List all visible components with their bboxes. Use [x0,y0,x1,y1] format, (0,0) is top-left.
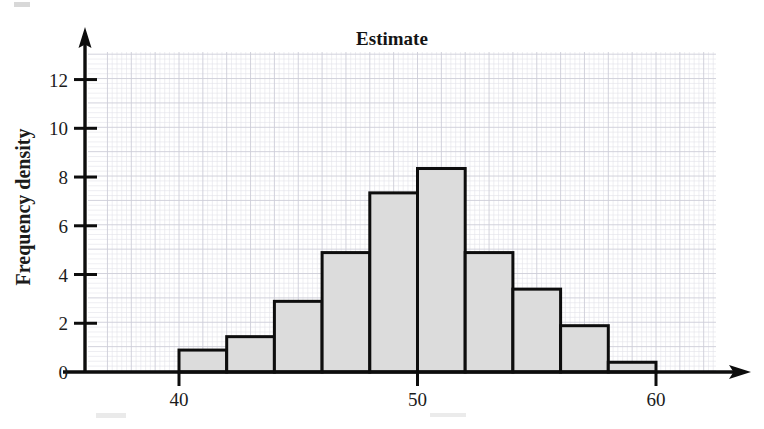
histogram-bar [179,350,227,372]
y-axis-title: Frequency density [12,129,35,286]
histogram-bar [322,253,370,372]
histogram-bar [465,253,513,372]
histogram-figure: 024681012 405060 Frequency density Estim… [0,0,764,429]
histogram-bar [227,337,275,372]
chart-canvas: 024681012 405060 Frequency density Estim… [0,0,764,429]
x-tick-label: 40 [170,389,189,410]
chart-title: Estimate [356,28,428,49]
histogram-bar [370,193,418,372]
histogram-bar [274,301,322,372]
y-tick-label: 2 [59,313,69,334]
histogram-bar [513,289,561,372]
histogram-bar [561,326,609,372]
y-tick-label: 4 [59,265,69,286]
y-tick-label: 8 [59,167,69,188]
histogram-bar [418,169,466,372]
x-tick-label: 50 [408,389,427,410]
x-tick-label: 60 [647,389,666,410]
y-tick-label: 0 [59,362,69,383]
y-tick-label: 6 [59,216,69,237]
y-tick-label: 10 [49,118,68,139]
y-tick-label: 12 [49,70,68,91]
